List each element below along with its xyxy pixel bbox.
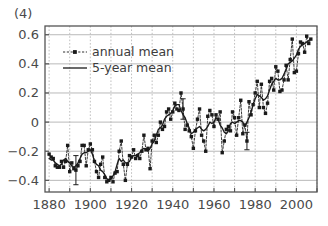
legend-label: 5-year mean <box>92 60 172 75</box>
y-axis-tick-label: 0.4 <box>18 56 39 71</box>
x-axis-tick-label: 2000 <box>280 197 313 212</box>
x-axis-tick-label: 1960 <box>197 197 230 212</box>
y-axis-tick-labels: −0.4−0.200.20.40.6 <box>7 27 39 188</box>
y-axis-tick-label: −0.2 <box>7 144 39 159</box>
x-axis-tick-label: 1980 <box>239 197 272 212</box>
temperature-anomaly-figure: (4) −0.4−0.200.20.40.6 18801900192019401… <box>0 0 328 226</box>
y-axis-tick-label: 0 <box>31 115 39 130</box>
line-chart: −0.4−0.200.20.40.6 188019001920194019601… <box>0 0 328 226</box>
x-axis-tick-label: 1920 <box>115 197 148 212</box>
legend-label: annual mean <box>92 44 174 59</box>
panel-label: (4) <box>14 6 32 21</box>
x-axis-tick-label: 1880 <box>33 197 66 212</box>
axis-ticks <box>45 35 317 192</box>
x-axis-tick-labels: 1880190019201940196019802000 <box>33 197 313 212</box>
y-axis-tick-label: −0.4 <box>7 173 39 188</box>
y-axis-tick-label: 0.6 <box>18 27 39 42</box>
y-axis-tick-label: 0.2 <box>18 85 39 100</box>
x-axis-tick-label: 1940 <box>156 197 189 212</box>
data-series-layer <box>47 34 312 183</box>
chart-legend: annual mean5-year mean <box>63 44 174 75</box>
legend-annual-mean-marker <box>73 50 77 54</box>
x-axis-tick-label: 1900 <box>74 197 107 212</box>
